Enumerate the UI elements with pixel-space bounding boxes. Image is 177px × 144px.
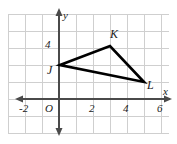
x-tick-label-4: 4 xyxy=(123,103,129,114)
x-tick-label-6: 6 xyxy=(157,103,163,114)
vertex-label-j: J xyxy=(47,64,52,76)
vertex-label-k: K xyxy=(110,28,118,40)
y-tick-label-4: 4 xyxy=(45,39,51,50)
origin-label: O xyxy=(45,103,53,114)
grid-lines xyxy=(8,14,169,133)
y-axis-up-arrow xyxy=(56,8,63,16)
x-tick-label-2: 2 xyxy=(89,103,95,114)
plot-canvas xyxy=(0,0,177,144)
y-axis-label: y xyxy=(63,10,68,21)
x-tick-label-minus2: -2 xyxy=(19,103,28,114)
vertex-label-l: L xyxy=(147,79,154,91)
y-axis-down-arrow xyxy=(56,128,63,136)
coordinate-plane-figure: x y O -2 2 4 6 4 J K L xyxy=(0,0,177,144)
x-axis-label: x xyxy=(163,86,168,97)
triangle-jkl xyxy=(60,46,144,82)
